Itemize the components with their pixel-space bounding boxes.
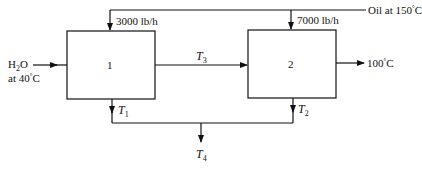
unit-2-label: 2 [288,59,294,70]
oil-inlet-label: Oil at 150°C [368,5,422,16]
water-outlet-label: 100°C [367,58,394,69]
t3-label: T3 [196,50,207,65]
oil-unit2-flow-label: 7000 lb/h [297,15,339,26]
t4-label: T4 [196,148,207,163]
t2-label: T2 [298,103,309,118]
unit-1-label: 1 [107,60,113,71]
water-inlet-label: H2O [8,59,28,73]
t1-label: T1 [118,104,129,119]
water-inlet-temp-label: at 40°C [8,73,40,84]
oil-unit1-flow-label: 3000 lb/h [116,16,158,27]
